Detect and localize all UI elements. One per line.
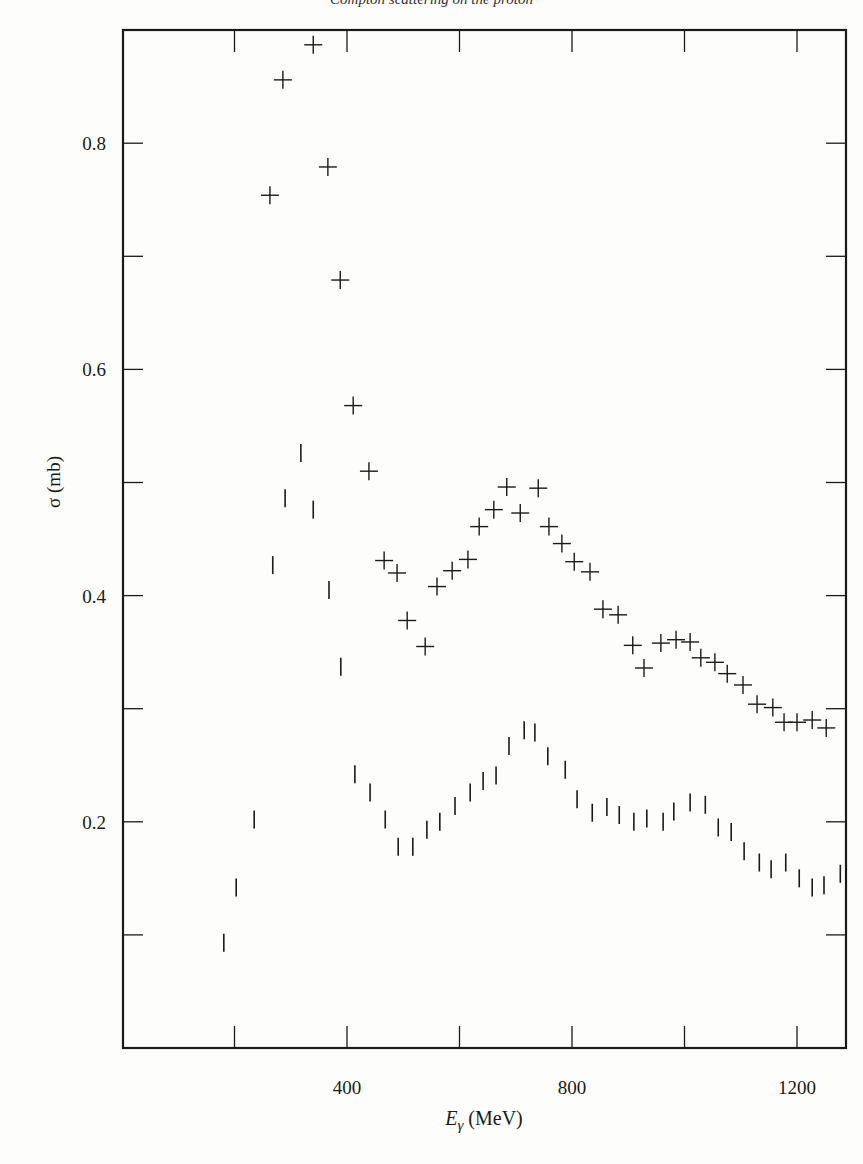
- data-point-cross: [470, 518, 488, 536]
- data-point-cross: [681, 633, 699, 651]
- data-point-cross: [511, 504, 529, 522]
- data-point-cross: [624, 636, 642, 654]
- data-point-cross: [485, 501, 503, 519]
- data-point-cross: [428, 578, 446, 596]
- axis-ticks: [123, 30, 846, 1048]
- y-axis-label: σ (mb): [43, 456, 65, 508]
- data-point-cross: [764, 699, 782, 717]
- data-point-cross: [803, 711, 821, 729]
- y-tick-label: 0.6: [82, 359, 106, 380]
- data-point-cross: [706, 653, 724, 671]
- series-upper-crosses: [261, 36, 835, 737]
- data-point-cross: [718, 665, 736, 683]
- x-tick-label: 800: [558, 1077, 587, 1098]
- axis-tick-labels: 40080012000.20.40.60.8: [82, 133, 816, 1098]
- data-point-cross: [788, 713, 806, 731]
- y-tick-label: 0.4: [82, 586, 106, 607]
- data-point-cross: [398, 611, 416, 629]
- data-point-cross: [274, 71, 292, 89]
- data-point-cross: [331, 271, 349, 289]
- data-point-cross: [553, 535, 571, 553]
- data-point-cross: [748, 695, 766, 713]
- data-point-cross: [344, 397, 362, 415]
- data-point-cross: [498, 478, 516, 496]
- data-point-cross: [692, 649, 710, 667]
- data-point-cross: [416, 637, 434, 655]
- data-point-cross: [375, 552, 393, 570]
- data-point-cross: [581, 563, 599, 581]
- y-tick-label: 0.2: [82, 812, 106, 833]
- data-point-cross: [817, 719, 835, 737]
- data-point-cross: [388, 564, 406, 582]
- plot-frame: [123, 30, 846, 1048]
- x-axis-label: Eγ (MeV): [444, 1107, 523, 1133]
- data-point-cross: [635, 659, 653, 677]
- data-point-cross: [319, 158, 337, 176]
- x-tick-label: 1200: [778, 1077, 816, 1098]
- data-point-cross: [667, 631, 685, 649]
- series-lower-bars: [224, 444, 841, 952]
- data-point-cross: [529, 479, 547, 497]
- data-point-cross: [459, 550, 477, 568]
- data-point-cross: [261, 186, 279, 204]
- data-point-cross: [304, 36, 322, 54]
- chart: 40080012000.20.40.60.8 σ (mb) Eγ (MeV): [0, 0, 863, 1164]
- y-tick-label: 0.8: [82, 133, 106, 154]
- data-point-cross: [565, 553, 583, 571]
- data-point-cross: [734, 676, 752, 694]
- data-point-cross: [443, 562, 461, 580]
- data-point-cross: [540, 518, 558, 536]
- data-point-cross: [360, 462, 378, 480]
- data-point-cross: [652, 634, 670, 652]
- x-tick-label: 400: [333, 1077, 362, 1098]
